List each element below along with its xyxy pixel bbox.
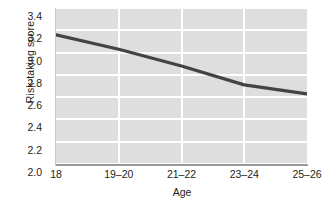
x-axis-title: Age [56, 186, 308, 198]
x-axis-tick-label: 18 [21, 169, 91, 180]
y-axis-tick-label: 3.0 [2, 56, 42, 66]
data-series-line [56, 8, 307, 164]
y-axis-tick-label: 2.6 [2, 100, 42, 110]
risk-taking-score-polyline [56, 35, 307, 94]
x-axis-line [56, 164, 308, 166]
y-axis-tick-label: 3.4 [2, 11, 42, 21]
x-axis-tick-label: 19–20 [84, 169, 154, 180]
y-axis-tick-label: 3.2 [2, 33, 42, 43]
plot-area [56, 8, 307, 164]
risk-taking-score-line-chart: Risk-taking score 3.43.23.02.82.62.42.22… [0, 0, 324, 208]
x-axis-tick-label: 23–24 [209, 169, 279, 180]
y-axis-tick-label: 2.4 [2, 122, 42, 132]
y-axis-tick-label: 2.2 [2, 145, 42, 155]
x-axis-tick-label: 21–22 [147, 169, 217, 180]
x-axis-tick-label: 25–26 [272, 169, 324, 180]
y-axis-tick-label: 2.8 [2, 78, 42, 88]
